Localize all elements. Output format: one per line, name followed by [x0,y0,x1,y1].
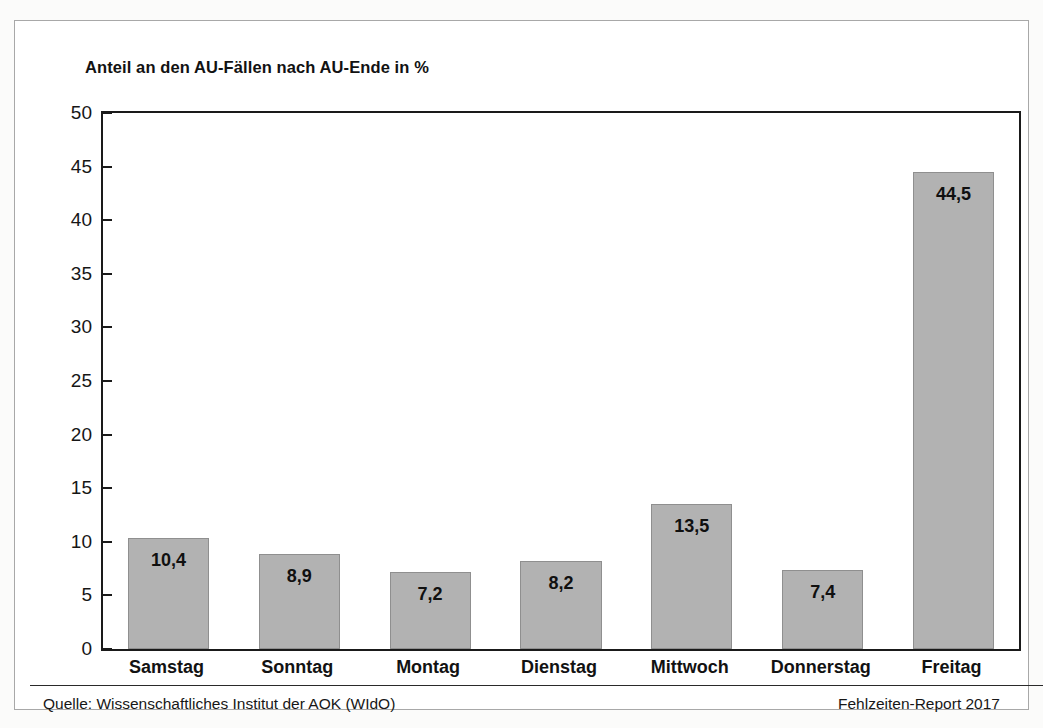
bar: 10,4 [128,538,209,649]
y-axis-tick-label: 15 [71,477,92,499]
bar-value-label: 10,4 [129,550,208,571]
x-axis-category-label: Sonntag [232,657,363,678]
y-axis-tick-label: 45 [71,156,92,178]
bar: 7,2 [390,572,471,649]
bar-value-label: 8,9 [260,566,339,587]
source-note: Quelle: Wissenschaftliches Institut der … [43,695,395,713]
report-note: Fehlzeiten-Report 2017 [838,695,1000,713]
x-axis-category-label: Samstag [101,657,232,678]
y-axis-tick-label: 20 [71,424,92,446]
bar: 13,5 [651,504,732,649]
y-axis-tick-mark [103,487,112,489]
scanned-page-background: Anteil an den AU-Fällen nach AU-Ende in … [0,0,1043,728]
y-axis-tick-label: 5 [81,584,92,606]
x-axis-category-label: Donnerstag [755,657,886,678]
y-axis-tick-mark [103,648,112,650]
bar-value-label: 13,5 [652,516,731,537]
y-axis-tick-label: 50 [71,102,92,124]
y-axis-tick-label: 30 [71,316,92,338]
y-axis-tick-label: 40 [71,209,92,231]
plot-area: 05101520253035404550 10,48,97,28,213,57,… [101,111,1021,651]
y-axis-tick-mark [103,594,112,596]
y-axis-tick-label: 0 [81,638,92,660]
x-axis-category-label: Mittwoch [624,657,755,678]
y-axis-tick-mark [103,112,112,114]
x-axis-category-label: Dienstag [494,657,625,678]
y-axis-tick-label: 10 [71,531,92,553]
figure-panel: Anteil an den AU-Fällen nach AU-Ende in … [14,20,1029,710]
bar: 8,2 [520,561,601,649]
x-axis-category-label: Montag [363,657,494,678]
footer-divider [30,685,1043,686]
bar: 7,4 [782,570,863,649]
y-axis-tick-mark [103,273,112,275]
y-axis-tick-mark [103,219,112,221]
y-axis-tick-mark [103,326,112,328]
bar-value-label: 7,2 [391,584,470,605]
y-axis-tick-mark [103,541,112,543]
bar-value-label: 44,5 [914,184,993,205]
y-axis-tick-mark [103,166,112,168]
bar: 44,5 [913,172,994,649]
bar: 8,9 [259,554,340,649]
y-axis-tick-label: 25 [71,370,92,392]
x-axis-category-label: Freitag [886,657,1017,678]
bar-value-label: 8,2 [521,573,600,594]
y-axis-tick-mark [103,380,112,382]
chart-title: Anteil an den AU-Fällen nach AU-Ende in … [85,58,429,77]
y-axis-tick-label: 35 [71,263,92,285]
y-axis-tick-mark [103,434,112,436]
bar-value-label: 7,4 [783,582,862,603]
